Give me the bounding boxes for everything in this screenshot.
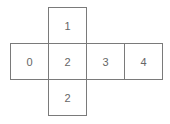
cell-label: 3 bbox=[102, 56, 108, 68]
net-cell-right: 3 bbox=[86, 43, 125, 80]
cell-label: 0 bbox=[26, 56, 32, 68]
net-cell-bottom: 2 bbox=[48, 79, 87, 116]
net-cell-far-right: 4 bbox=[124, 43, 163, 80]
cell-label: 4 bbox=[140, 56, 146, 68]
net-cell-center: 2 bbox=[48, 43, 87, 80]
cell-label: 1 bbox=[64, 20, 70, 32]
cell-label: 2 bbox=[64, 56, 70, 68]
cell-label: 2 bbox=[64, 92, 70, 104]
net-cell-top: 1 bbox=[48, 7, 87, 44]
net-cell-left: 0 bbox=[10, 43, 49, 80]
